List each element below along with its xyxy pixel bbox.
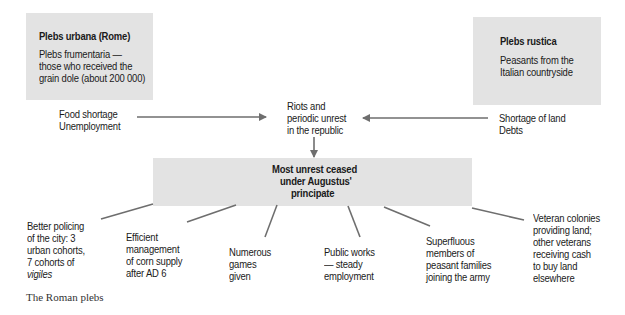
measure-policing-1: Better policing: [27, 220, 84, 232]
rustica-cause-1: Shortage of land: [499, 112, 565, 124]
plebs-rustica-title: Plebs rustica: [500, 35, 556, 47]
measure-army-2: members of: [426, 247, 474, 259]
riots-line-3: in the republic: [287, 124, 343, 136]
plebs-urbana-desc-1: Plebs frumentaria —: [39, 48, 122, 60]
measure-veterans-4: receiving cash: [533, 248, 591, 260]
measure-public-1: Public works: [324, 246, 375, 258]
urbana-cause-2: Unemployment: [59, 120, 120, 132]
plebs-urbana-desc-2: those who received the: [39, 60, 132, 72]
measure-games-2: games: [229, 258, 256, 270]
measure-veterans-1: Veteran colonies: [533, 212, 600, 224]
line-policing: [101, 204, 153, 219]
measure-policing-4: 7 cohorts of: [27, 256, 74, 268]
line-games: [265, 205, 277, 237]
line-public-works: [348, 206, 360, 237]
plebs-rustica-desc-1: Peasants from the: [500, 54, 574, 66]
measure-veterans-6: elsewhere: [533, 272, 574, 284]
measure-policing-3: urban cohorts,: [27, 244, 85, 256]
measure-corn-4: after AD 6: [126, 267, 166, 279]
measure-veterans-5: to buy land: [533, 260, 577, 272]
plebs-urbana-title: Plebs urbana (Rome): [39, 30, 130, 42]
riots-line-1: Riots and: [287, 100, 325, 112]
riots-line-2: periodic unrest: [287, 112, 346, 124]
measure-army-1: Superfluous: [426, 235, 474, 247]
measure-public-2: — steady: [324, 258, 362, 270]
measure-policing-5: vigiles: [27, 268, 52, 280]
measure-army-4: joining the army: [426, 271, 490, 283]
measure-veterans-2: providing land;: [533, 224, 592, 236]
result-line-3: principate: [291, 187, 334, 199]
measure-corn-1: Efficient: [126, 231, 158, 243]
measure-policing-2: of the city: 3: [27, 232, 75, 244]
urbana-cause-1: Food shortage: [59, 108, 118, 120]
line-corn-supply: [187, 205, 236, 222]
line-veterans: [472, 208, 524, 220]
measure-corn-3: of corn supply: [126, 255, 182, 267]
measure-games-1: Numerous: [229, 246, 271, 258]
figure-caption: The Roman plebs: [26, 291, 104, 303]
measure-corn-2: management: [126, 243, 179, 255]
line-army: [384, 207, 430, 226]
plebs-urbana-desc-3: grain dole (about 200 000): [39, 72, 145, 84]
measure-veterans-3: other veterans: [533, 236, 591, 248]
measure-public-3: employment: [324, 270, 374, 282]
rustica-cause-2: Debts: [499, 124, 523, 136]
measure-army-3: peasant families: [426, 259, 491, 271]
result-line-1: Most unrest ceased: [272, 163, 357, 175]
measure-games-3: given: [229, 270, 251, 282]
plebs-rustica-desc-2: Italian countryside: [500, 66, 573, 78]
result-line-2: under Augustus': [280, 175, 352, 187]
